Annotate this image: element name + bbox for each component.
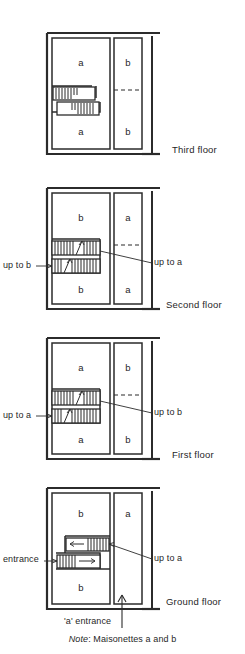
stair-lower-flight	[52, 259, 100, 273]
unit-label-top-right: b	[125, 362, 130, 373]
stair-lower-flight	[57, 555, 100, 568]
stair-lower-treads	[55, 409, 96, 423]
unit-label-top-right: b	[125, 57, 130, 68]
unit-label-bottom-left: a	[78, 434, 84, 445]
unit-label-top-left: a	[78, 362, 84, 373]
unit-label-top-right: a	[125, 508, 131, 519]
note-colon: :	[88, 634, 91, 644]
callout-a-entrance: 'a' entrance	[64, 616, 111, 626]
floor-plan-second-floor: b a b a up to b up to a Second floor	[0, 183, 245, 323]
third-floor-plan-drawing: a b a b	[0, 28, 180, 168]
unit-label-bottom-right: a	[125, 284, 131, 295]
unit-label-bottom-left: b	[78, 284, 83, 295]
callout-up-to-b-right: up to b	[154, 407, 182, 417]
right-callout-leader	[100, 251, 152, 263]
floor-caption-first: First floor	[172, 449, 214, 460]
floor-plan-third-floor: a b a b Third floor	[0, 28, 245, 168]
unit-label-top-left: a	[78, 57, 84, 68]
stair-upper-treads	[88, 538, 106, 551]
unit-label-bottom-right: b	[125, 126, 130, 137]
stair-upper-flight	[52, 391, 100, 405]
unit-label-top-left: b	[78, 508, 83, 519]
callout-up-to-a-right: up to a	[154, 257, 182, 267]
floor-plan-diagram: a b a b Third floor	[0, 0, 245, 654]
floor-caption-third: Third floor	[172, 144, 217, 155]
floor-caption-ground: Ground floor	[166, 596, 221, 607]
diagram-note: Note: Maisonettes a and b	[0, 634, 245, 644]
callout-up-to-a-left: up to a	[3, 410, 31, 420]
unit-label-top-left: b	[78, 212, 83, 223]
floor-plan-ground-floor: b a b entrance up to a 'a' entrance Grou…	[0, 483, 245, 633]
note-text: Maisonettes a and b	[93, 634, 176, 644]
note-prefix: Note	[69, 634, 88, 644]
unit-label-bottom-left: b	[78, 582, 83, 593]
callout-entrance: entrance	[3, 554, 39, 564]
stair-upper-flight	[53, 87, 95, 100]
stair-upper-flight	[66, 538, 109, 551]
stair-lower-treads	[55, 259, 96, 273]
stair-lower-flight	[57, 102, 99, 115]
unit-label-bottom-right: b	[125, 434, 130, 445]
floor-plan-first-floor: a b a b up to a up to b First floor	[0, 333, 245, 473]
unit-label-top-right: a	[125, 212, 131, 223]
floor-caption-second: Second floor	[166, 299, 222, 310]
stair-lower-flight	[52, 409, 100, 423]
callout-up-to-b-left: up to b	[3, 260, 31, 270]
stair-upper-flight	[52, 241, 100, 255]
up-to-a-callout-leader	[109, 544, 152, 559]
unit-label-bottom-left: a	[78, 126, 84, 137]
callout-up-to-a-ground: up to a	[154, 553, 182, 563]
right-callout-leader	[100, 401, 152, 413]
